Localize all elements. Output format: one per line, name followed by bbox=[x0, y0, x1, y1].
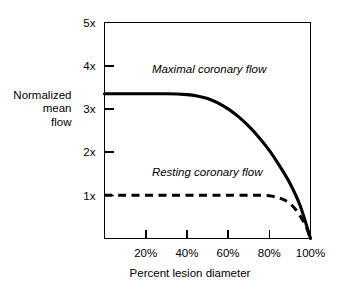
x-axis-ticks bbox=[146, 230, 270, 239]
y-axis-tick-labels: 1x2x3x4x5x bbox=[83, 17, 95, 202]
coronary-flow-chart: Normalized mean flow 1x2x3x4x5x 20%40%60… bbox=[0, 0, 337, 292]
y-tick-label-4x: 4x bbox=[83, 60, 95, 72]
x-axis-tick-labels: 20%40%60%80%100% bbox=[134, 247, 325, 259]
plot-frame-box bbox=[105, 23, 311, 239]
x-tick-label-40%: 40% bbox=[175, 247, 198, 259]
y-tick-label-1x: 1x bbox=[83, 190, 95, 202]
plot-frame bbox=[105, 23, 311, 239]
chart-canvas: 1x2x3x4x5x 20%40%60%80%100% Maximal coro… bbox=[0, 0, 337, 292]
series-annotation-resting-coronary-flow: Resting coronary flow bbox=[152, 166, 263, 178]
y-tick-label-5x: 5x bbox=[83, 17, 95, 29]
x-tick-label-60%: 60% bbox=[217, 247, 240, 259]
y-tick-label-2x: 2x bbox=[83, 146, 95, 158]
y-tick-label-3x: 3x bbox=[83, 103, 95, 115]
x-axis-title: Percent lesion diameter bbox=[130, 267, 251, 279]
x-tick-label-80%: 80% bbox=[258, 247, 281, 259]
series-line-resting-coronary-flow bbox=[105, 195, 311, 238]
series-annotations: Maximal coronary flowResting coronary fl… bbox=[152, 63, 267, 178]
x-tick-label-20%: 20% bbox=[134, 247, 157, 259]
series-annotation-maximal-coronary-flow: Maximal coronary flow bbox=[152, 63, 267, 75]
x-tick-label-100%: 100% bbox=[296, 247, 325, 259]
y-axis-ticks bbox=[105, 66, 114, 196]
